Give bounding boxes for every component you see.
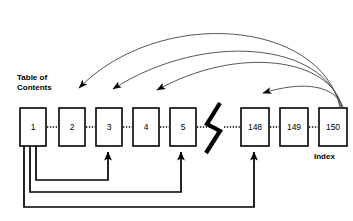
- page-box-label: 1: [31, 122, 36, 132]
- toc-return-to-page-3: [36, 146, 108, 180]
- page-box-label: 3: [107, 122, 112, 132]
- toc-return-group: [24, 146, 254, 207]
- page-box-148[interactable]: 148: [241, 108, 269, 146]
- page-box-label: 148: [248, 122, 262, 132]
- table-of-contents-label-line2: Contents: [17, 83, 52, 92]
- page-box-4[interactable]: 4: [133, 108, 159, 146]
- page-box-5[interactable]: 5: [170, 108, 196, 146]
- page-break-zigzag: [206, 103, 220, 153]
- page-box-150[interactable]: 150: [319, 108, 347, 146]
- page-box-label: 150: [326, 122, 340, 132]
- page-box-label: 2: [70, 122, 75, 132]
- page-box-1[interactable]: 1: [20, 108, 46, 146]
- index-arc-to-page-3: [113, 51, 341, 107]
- book-navigation-diagram: 1 2 3 4 5 148 149 150 Ta: [0, 0, 353, 221]
- index-arc-to-page-2: [79, 34, 340, 107]
- toc-return-to-page-5: [30, 146, 181, 192]
- index-arc-to-page-5: [157, 62, 342, 107]
- page-box-label: 149: [287, 122, 301, 132]
- page-box-label: 4: [144, 122, 149, 132]
- diagram-canvas: 1 2 3 4 5 148 149 150 Ta: [0, 0, 353, 221]
- page-box-label: 5: [181, 122, 186, 132]
- page-box-2[interactable]: 2: [59, 108, 85, 146]
- index-arc-group: [79, 34, 343, 107]
- index-arc-to-page-148: [263, 86, 343, 107]
- index-label: Index: [314, 152, 335, 161]
- page-box-3[interactable]: 3: [96, 108, 122, 146]
- table-of-contents-label-line1: Table of: [17, 73, 47, 82]
- page-box-149[interactable]: 149: [280, 108, 308, 146]
- toc-return-to-page-148: [24, 146, 254, 207]
